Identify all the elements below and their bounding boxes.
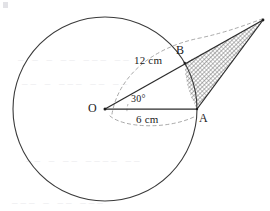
label-radius-6cm: 6 cm [136, 114, 159, 125]
label-angle-30deg: 30° [131, 94, 146, 104]
label-point-a: A [199, 112, 208, 124]
point-a-marker [196, 108, 198, 110]
label-point-b: B [176, 44, 184, 56]
label-length-12cm: 12 cm [134, 55, 162, 66]
point-b-marker [184, 62, 186, 64]
label-center-o: O [88, 102, 97, 114]
figure-page: – – – –– ––– –– –– – ––– –– –– –– – –– –… [0, 0, 270, 211]
geometry-figure [0, 0, 270, 211]
segment-o-to-apex [105, 20, 263, 109]
apex-marker [262, 19, 265, 22]
point-o-marker [104, 108, 107, 111]
